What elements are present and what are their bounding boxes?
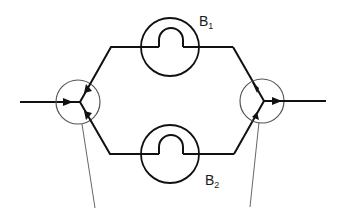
- branch-b2-bump: [159, 135, 183, 154]
- upper-merge-path: [233, 47, 264, 101]
- left-leader-line: [82, 124, 95, 208]
- branch-b1-bump: [159, 28, 183, 47]
- arrow-icon: [84, 84, 92, 93]
- arrow-icon: [84, 111, 92, 120]
- arrow-icon: [272, 97, 282, 105]
- lower-merge-path: [234, 101, 264, 154]
- lower-branch-path: [80, 102, 159, 154]
- output-line: [264, 97, 326, 105]
- parallel-branch-diagram: B1 B2: [0, 0, 346, 218]
- right-leader-line: [250, 122, 259, 207]
- input-line: [20, 98, 80, 106]
- branch-b1: B1: [141, 13, 233, 76]
- branch-b2: B2: [141, 125, 234, 190]
- label-b1: B1: [199, 13, 213, 31]
- label-b2: B2: [205, 172, 219, 190]
- arrow-icon: [63, 98, 73, 106]
- upper-branch-path: [80, 47, 159, 102]
